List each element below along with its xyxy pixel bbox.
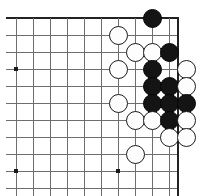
- white-stone[interactable]: [126, 111, 145, 130]
- stone-layer: [0, 0, 197, 196]
- white-stone[interactable]: [177, 111, 196, 130]
- black-stone[interactable]: [143, 60, 162, 79]
- white-stone[interactable]: [109, 94, 128, 113]
- go-board-diagram: [0, 0, 197, 196]
- black-stone[interactable]: [160, 111, 179, 130]
- white-stone[interactable]: [109, 60, 128, 79]
- white-stone[interactable]: [160, 128, 179, 147]
- white-stone[interactable]: [109, 26, 128, 45]
- black-stone[interactable]: [143, 77, 162, 96]
- white-stone[interactable]: [126, 145, 145, 164]
- white-stone[interactable]: [177, 128, 196, 147]
- white-stone[interactable]: [143, 111, 162, 130]
- black-stone[interactable]: [143, 9, 162, 28]
- black-stone[interactable]: [160, 43, 179, 62]
- white-stone[interactable]: [143, 43, 162, 62]
- white-stone[interactable]: [177, 77, 196, 96]
- white-stone[interactable]: [126, 43, 145, 62]
- black-stone[interactable]: [177, 94, 196, 113]
- white-stone[interactable]: [177, 60, 196, 79]
- black-stone[interactable]: [160, 77, 179, 96]
- black-stone[interactable]: [160, 94, 179, 113]
- black-stone[interactable]: [143, 94, 162, 113]
